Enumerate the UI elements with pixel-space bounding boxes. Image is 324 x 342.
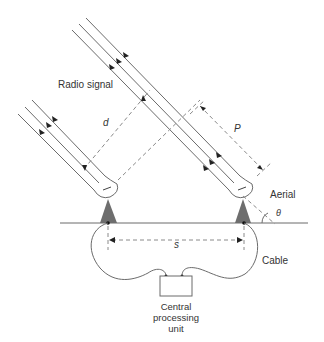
central-processing-unit-box <box>160 276 192 296</box>
s-label: s <box>174 239 179 250</box>
aerial-label: Aerial <box>270 189 296 200</box>
theta-arc <box>262 213 268 223</box>
cable <box>91 223 166 280</box>
theta-label: θ <box>276 208 281 218</box>
cable-right <box>182 223 258 278</box>
right-signal-rays <box>72 18 240 190</box>
cpu-label-line3: unit <box>168 323 184 334</box>
radio-signal-label: Radio signal <box>58 79 113 90</box>
d-label: d <box>103 117 109 128</box>
left-dish <box>94 176 118 198</box>
left-aerial-mast <box>100 199 117 223</box>
cpu-label-line2: processing <box>153 312 199 323</box>
d-dimension <box>83 90 200 180</box>
right-aerial-mast <box>235 199 251 223</box>
cable-label: Cable <box>262 255 289 266</box>
left-signal-rays <box>18 100 105 190</box>
p-label: P <box>234 123 241 134</box>
p-dimension <box>190 100 275 224</box>
left-signal-arrows <box>39 116 58 135</box>
right-dish <box>229 176 253 198</box>
cpu-label-line1: Central <box>161 301 192 312</box>
radio-interferometer-diagram: Radio signal d P Aerial θ s Cable Centra… <box>0 0 324 342</box>
